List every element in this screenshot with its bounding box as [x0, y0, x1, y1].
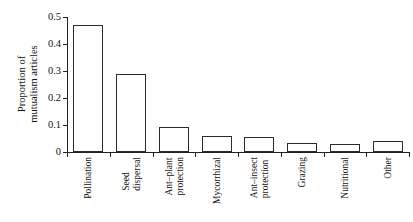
y-tick-mark [63, 125, 67, 126]
x-axis-label: Grazing [297, 157, 308, 188]
bar [73, 25, 103, 152]
x-axis-label-line: Seed [121, 157, 132, 191]
y-tick-label: 0.1 [48, 118, 61, 131]
x-axis-label: Seeddispersal [121, 157, 142, 191]
x-label-slot: Nutritional [324, 157, 367, 221]
y-tick-label: 0.5 [48, 10, 61, 23]
x-axis-label-line: protection [174, 157, 185, 196]
x-axis-label: Mycorrhizal [211, 157, 222, 204]
x-label-slot: Seeddispersal [110, 157, 153, 221]
x-axis-label: Pollination [83, 157, 94, 199]
x-label-slot: Grazing [281, 157, 324, 221]
x-axis-label-line: Ant–plant [163, 157, 174, 196]
y-tick-label: 0.3 [48, 64, 61, 77]
bar [373, 141, 403, 152]
y-axis-title-line-2: mutualism articles [28, 45, 40, 122]
x-axis-label-line: dispersal [131, 157, 142, 191]
x-axis-label-line: Mycorrhizal [211, 157, 222, 204]
x-tick-mark [409, 152, 410, 157]
x-label-slot: Pollination [67, 157, 110, 221]
bar [159, 127, 189, 152]
x-label-slot: Ant–plantprotection [153, 157, 196, 221]
bar [330, 144, 360, 152]
x-axis-label: Nutritional [340, 157, 351, 199]
x-axis-label-line: Ant–insect [249, 157, 260, 198]
x-label-slot: Ant–insectprotection [238, 157, 281, 221]
y-tick-mark [63, 44, 67, 45]
y-tick-mark [63, 71, 67, 72]
y-axis-line [67, 17, 68, 152]
y-axis-title-line-1: Proportion of [16, 45, 28, 122]
bar [202, 136, 232, 152]
x-axis-label-line: Pollination [83, 157, 94, 199]
x-axis-label-line: protection [259, 157, 270, 198]
x-axis-label-line: Nutritional [340, 157, 351, 199]
x-axis-label-line: Grazing [297, 157, 308, 188]
y-tick-mark [63, 98, 67, 99]
x-axis-label: Ant–insectprotection [249, 157, 270, 198]
x-axis-label-line: Other [382, 157, 393, 179]
bar [116, 74, 146, 152]
y-tick-label: 0.4 [48, 37, 61, 50]
y-axis-title-text: Proportion of mutualism articles [16, 45, 40, 122]
y-tick-mark [63, 17, 67, 18]
x-axis-category-labels: PollinationSeeddispersalAnt–plantprotect… [67, 157, 409, 221]
y-tick-label: 0 [56, 145, 61, 158]
y-axis-title: Proportion of mutualism articles [8, 14, 48, 154]
plot-area: 00.10.20.30.40.5 [67, 17, 409, 152]
y-tick-label: 0.2 [48, 91, 61, 104]
bar-chart-figure: Proportion of mutualism articles 00.10.2… [0, 0, 413, 222]
bar [244, 137, 274, 152]
x-axis-label: Ant–plantprotection [163, 157, 184, 196]
x-label-slot: Mycorrhizal [195, 157, 238, 221]
bar [287, 143, 317, 152]
x-axis-label: Other [382, 157, 393, 179]
x-label-slot: Other [366, 157, 409, 221]
